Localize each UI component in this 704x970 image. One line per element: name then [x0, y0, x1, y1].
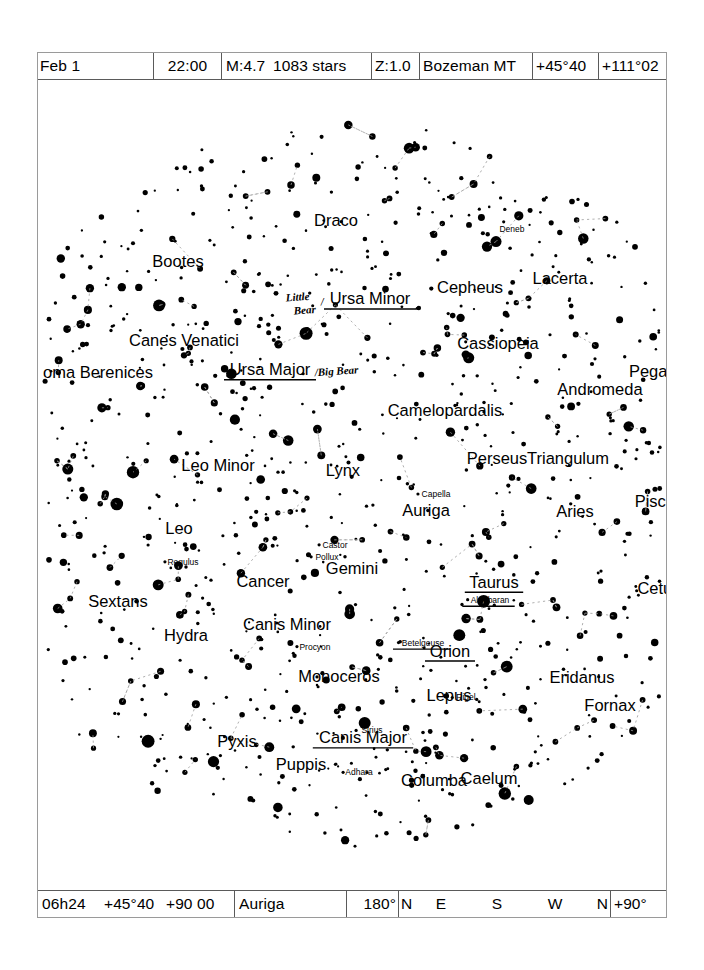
star: [560, 404, 565, 409]
star: [537, 735, 539, 737]
header-time[interactable]: 22:00: [153, 53, 221, 79]
star: [528, 208, 533, 213]
star: [118, 637, 124, 643]
star: [305, 525, 308, 528]
header-longitude[interactable]: +111°02: [598, 53, 666, 79]
star: [471, 823, 474, 826]
star: [382, 432, 384, 434]
star: [591, 261, 593, 263]
star: [554, 254, 557, 257]
star: [488, 607, 491, 610]
star: [196, 481, 199, 484]
star: [616, 316, 623, 323]
star: [292, 247, 295, 250]
footer-constellation[interactable]: Auriga: [234, 891, 346, 917]
star: [295, 163, 300, 168]
star: [221, 534, 224, 537]
star: [405, 558, 408, 561]
star: [484, 560, 487, 563]
star: [414, 836, 419, 841]
constellation-label-canis-minor: Canis Minor: [243, 615, 331, 633]
star: [395, 191, 399, 195]
star: [152, 627, 155, 630]
header-date[interactable]: Feb 1: [38, 53, 153, 79]
star: [444, 325, 449, 330]
star: [207, 753, 209, 755]
star: [513, 554, 518, 559]
star: [638, 339, 641, 342]
sky-map[interactable]: DracoDenebBootesCepheusLacertaUrsa Minor…: [38, 80, 666, 890]
constellation-line: [400, 457, 412, 487]
star: [231, 226, 234, 229]
star: [378, 772, 381, 775]
star: [567, 403, 575, 411]
header-magnitude[interactable]: M:4.7: [221, 53, 271, 79]
star: [388, 658, 393, 663]
star: [97, 501, 103, 506]
star: [358, 428, 361, 431]
constellation-label-draco: Draco: [314, 211, 358, 229]
star: [492, 181, 495, 184]
star: [140, 735, 142, 737]
chart-header-bar: Feb 1 22:00 M:4.7 1083 stars Z:1.0 Bozem…: [38, 53, 666, 80]
star: [177, 189, 179, 191]
star: [288, 659, 291, 662]
star: [179, 276, 182, 279]
constellation-line: [577, 219, 606, 220]
star: [274, 291, 279, 296]
star: [402, 364, 405, 367]
star: [623, 421, 633, 431]
star: [395, 686, 398, 689]
star: [344, 455, 347, 458]
star: [131, 241, 135, 245]
star: [514, 300, 519, 305]
star: [73, 520, 77, 524]
constellation-label-caelum: Caelum: [461, 769, 518, 787]
star: [145, 413, 150, 418]
star: [311, 153, 313, 155]
star: [185, 451, 189, 455]
star: [263, 717, 266, 720]
star: [279, 720, 282, 723]
footer-elevation[interactable]: +90°: [610, 891, 666, 917]
constellation-line: [434, 223, 443, 234]
footer-field[interactable]: 180°: [346, 891, 398, 917]
header-location[interactable]: Bozeman MT: [419, 53, 532, 79]
star: [285, 690, 288, 693]
star: [109, 305, 112, 308]
star: [624, 439, 627, 442]
star: [143, 536, 145, 538]
handwritten-note-2: /: [319, 295, 325, 307]
star: [537, 762, 540, 765]
star: [229, 194, 233, 198]
star: [361, 161, 363, 163]
star: [337, 765, 339, 767]
star: [261, 396, 264, 399]
star: [506, 301, 509, 304]
star: [500, 328, 503, 331]
star: [508, 247, 512, 251]
star: [204, 676, 207, 679]
star: [290, 131, 292, 133]
star: [264, 465, 267, 468]
star: [92, 553, 97, 558]
star-label-regulus: Regulus: [167, 557, 198, 567]
star-marker-dot: [318, 543, 321, 546]
star: [217, 487, 222, 492]
star: [230, 389, 235, 394]
constellation-labels: DracoDenebBootesCepheusLacertaUrsa Minor…: [43, 211, 666, 790]
constellation-label-lepus: Lepus: [427, 686, 472, 704]
header-latitude[interactable]: +45°40: [532, 53, 598, 79]
header-zoom[interactable]: Z:1.0: [371, 53, 419, 79]
star: [234, 184, 237, 187]
star: [213, 243, 216, 246]
constellation-label-orion: Orion: [430, 642, 470, 660]
star-marker-dot: [310, 555, 313, 558]
star: [237, 551, 241, 555]
star: [257, 755, 261, 759]
star: [219, 412, 222, 415]
star: [126, 456, 128, 458]
star: [282, 238, 287, 243]
star: [620, 467, 623, 470]
star: [614, 464, 619, 469]
